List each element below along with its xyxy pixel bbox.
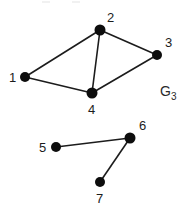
graph-name-base: G — [160, 83, 171, 99]
graph-name-label: G3 — [160, 83, 177, 102]
edge-2-4 — [92, 30, 100, 93]
edge-6-7 — [100, 138, 130, 182]
edge-4-3 — [92, 55, 157, 93]
vertex-7[interactable] — [95, 177, 105, 187]
vertex-label-7: 7 — [96, 191, 103, 206]
vertex-label-group: 1 2 3 4 5 6 7 — [9, 10, 172, 206]
vertex-3[interactable] — [152, 50, 162, 60]
vertex-5[interactable] — [51, 142, 61, 152]
graph-figure: 1 2 3 4 5 6 7 G3 — [0, 0, 190, 216]
vertex-label-6: 6 — [139, 118, 146, 133]
edge-2-3 — [100, 30, 157, 55]
vertex-label-3: 3 — [165, 35, 172, 50]
edge-1-2 — [25, 30, 100, 77]
edge-1-4 — [25, 77, 92, 93]
vertex-label-2: 2 — [107, 10, 114, 25]
vertex-4[interactable] — [87, 88, 98, 99]
vertex-1[interactable] — [20, 72, 30, 82]
edge-5-6 — [56, 138, 130, 147]
vertex-6[interactable] — [125, 133, 136, 144]
vertex-label-1: 1 — [9, 70, 16, 85]
vertex-label-5: 5 — [39, 140, 46, 155]
vertex-label-4: 4 — [88, 102, 95, 117]
graph-canvas: 1 2 3 4 5 6 7 G3 — [0, 0, 190, 216]
vertex-2[interactable] — [95, 25, 106, 36]
graph-name-subscript: 3 — [171, 91, 177, 102]
